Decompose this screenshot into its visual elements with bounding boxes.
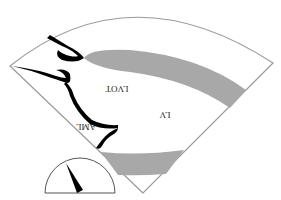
label-lv: LV bbox=[159, 110, 171, 120]
label-lvot: LVOT bbox=[105, 84, 129, 94]
echo-sector-diagram: LVOT LV AML bbox=[0, 0, 281, 200]
lower-myocardium-band bbox=[101, 150, 184, 175]
label-aml: AML bbox=[76, 122, 96, 132]
